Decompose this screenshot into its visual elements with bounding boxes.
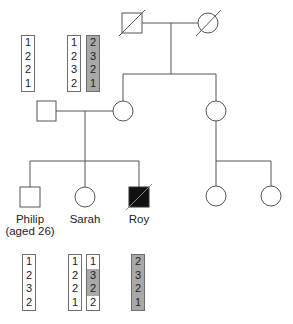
allele: 3 <box>132 269 144 283</box>
mother-haplotype-1: 1 2 3 2 <box>67 35 81 92</box>
grandfather-symbol <box>119 10 145 36</box>
father-symbol <box>37 101 56 121</box>
allele: 1 <box>69 296 81 310</box>
mother-haplotype-2: 2 3 2 1 <box>86 35 100 92</box>
allele: 3 <box>68 63 80 77</box>
philip-haplotype-1: 1 2 3 2 <box>22 254 36 311</box>
cousin1-symbol <box>206 186 226 206</box>
allele: 2 <box>22 50 34 64</box>
allele: 1 <box>87 77 99 91</box>
allele: 3 <box>23 282 35 296</box>
sarah-haplotype-1: 1 2 2 1 <box>68 254 82 311</box>
roy-haplotype-1: 2 3 2 1 <box>131 254 145 311</box>
roy-name-label: Roy <box>114 213 164 225</box>
allele: 1 <box>22 36 34 50</box>
allele: 2 <box>87 63 99 77</box>
allele-shaded: 2 <box>87 282 99 296</box>
philip-name-label: Philip <box>5 213 55 225</box>
aunt-symbol <box>206 101 226 121</box>
roy-symbol <box>126 184 152 210</box>
cousin2-symbol <box>261 186 281 206</box>
allele: 2 <box>23 296 35 310</box>
philip-age-label: (aged 26) <box>0 225 60 237</box>
allele: 2 <box>69 269 81 283</box>
allele: 1 <box>87 255 99 269</box>
allele-shaded: 3 <box>87 269 99 283</box>
sarah-symbol <box>75 187 95 207</box>
allele: 2 <box>132 282 144 296</box>
mother-symbol <box>113 101 133 121</box>
father-haplotype-1: 1 2 2 1 <box>21 35 35 92</box>
sarah-name-label: Sarah <box>60 213 110 225</box>
allele: 2 <box>22 63 34 77</box>
pedigree-diagram <box>0 0 293 324</box>
allele: 2 <box>68 50 80 64</box>
allele: 2 <box>87 36 99 50</box>
allele: 2 <box>69 282 81 296</box>
allele: 1 <box>22 77 34 91</box>
grandmother-symbol <box>196 10 221 36</box>
allele: 2 <box>23 269 35 283</box>
allele: 1 <box>68 36 80 50</box>
sarah-haplotype-2: 1 3 2 2 <box>86 254 100 311</box>
allele: 1 <box>69 255 81 269</box>
allele: 2 <box>132 255 144 269</box>
allele: 2 <box>68 77 80 91</box>
philip-symbol <box>20 187 40 207</box>
allele: 2 <box>87 296 99 310</box>
allele: 1 <box>23 255 35 269</box>
allele: 1 <box>132 296 144 310</box>
allele: 3 <box>87 50 99 64</box>
